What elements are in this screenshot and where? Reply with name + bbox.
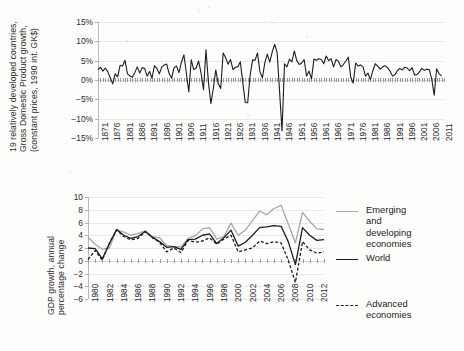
x-tick-label: 2001 <box>420 123 429 141</box>
x-tick-label: 1998 <box>220 284 229 302</box>
y-tick-label: 0 <box>61 256 83 266</box>
x-tick-label: 1931 <box>248 123 257 141</box>
x-tick-label: 1971 <box>347 123 356 141</box>
y-tick-label: −10% <box>59 114 93 124</box>
x-tick-label: 1906 <box>187 123 196 141</box>
x-tick-label: 1986 <box>134 284 143 302</box>
x-tick-label: 2006 <box>277 284 286 302</box>
y-tick-mark <box>85 299 88 300</box>
bottom-chart-legend: Emerging and developing economiesWorldAd… <box>336 201 464 311</box>
y-tick-label: 5% <box>59 56 93 66</box>
x-tick-label: 1981 <box>371 123 380 141</box>
y-tick-label: −4 <box>61 281 83 291</box>
x-tick-label: 1936 <box>261 123 270 141</box>
x-tick-label: 1980 <box>91 284 100 302</box>
x-tick-label: 2000 <box>234 284 243 302</box>
x-tick-mark <box>444 78 445 82</box>
x-tick-label: 1961 <box>322 123 331 141</box>
figure-page: 19 relatively developed countries, Gross… <box>0 0 464 351</box>
series-line <box>88 230 324 282</box>
x-tick-label: 2010 <box>306 284 315 302</box>
legend-swatch-icon <box>336 259 358 260</box>
series-line <box>98 44 442 131</box>
x-tick-label: 1966 <box>334 123 343 141</box>
x-tick-label: 2006 <box>432 123 441 141</box>
y-tick-label: 10 <box>61 192 83 202</box>
x-tick-label: 1946 <box>285 123 294 141</box>
series-layer <box>98 22 444 138</box>
x-tick-label: 2002 <box>249 284 258 302</box>
top-chart-plot-area <box>98 22 444 138</box>
legend-swatch-icon <box>336 305 358 306</box>
x-tick-label: 1926 <box>236 123 245 141</box>
y-tick-label: −5% <box>59 94 93 104</box>
top-chart-panel: 19 relatively developed countries, Gross… <box>0 0 464 185</box>
x-tick-label: 1901 <box>175 123 184 141</box>
x-tick-label: 2008 <box>291 284 300 302</box>
x-tick-label: 1871 <box>101 123 110 141</box>
x-tick-label: 1976 <box>359 123 368 141</box>
y-tick-label: 0% <box>59 75 93 85</box>
x-tick-label: 1991 <box>396 123 405 141</box>
x-tick-label: 2004 <box>263 284 272 302</box>
x-tick-label: 1996 <box>408 123 417 141</box>
bottom-chart-panel: GDP growth, annual percentage change 108… <box>0 185 464 351</box>
y-tick-label: 15% <box>59 17 93 27</box>
y-tick-label: 4 <box>61 230 83 240</box>
y-tick-label: 8 <box>61 205 83 215</box>
top-chart-y-axis-title: 19 relatively developed countries, Gross… <box>8 2 39 152</box>
x-tick-label: 1951 <box>298 123 307 141</box>
x-tick-label: 1982 <box>106 284 115 302</box>
y-tick-label: −6 <box>61 294 83 304</box>
legend-swatch-icon <box>336 211 358 212</box>
y-tick-label: −15% <box>59 133 93 143</box>
x-tick-label: 1994 <box>191 284 200 302</box>
x-tick-label: 1911 <box>199 123 208 141</box>
y-tick-label: 6 <box>61 218 83 228</box>
x-tick-label: 1988 <box>148 284 157 302</box>
x-tick-label: 1921 <box>224 123 233 141</box>
x-tick-label: 1996 <box>206 284 215 302</box>
x-tick-label: 1990 <box>163 284 172 302</box>
x-tick-label: 1986 <box>383 123 392 141</box>
x-tick-label: 1896 <box>163 123 172 141</box>
y-tick-label: 2 <box>61 243 83 253</box>
x-tick-label: 1886 <box>138 123 147 141</box>
top-y-title-line-2: Gross Domestic Product growth, <box>18 2 28 152</box>
y-tick-label: −2 <box>61 269 83 279</box>
y-tick-mark <box>95 138 98 139</box>
legend-label: Emerging and developing economies <box>366 204 411 250</box>
x-tick-label: 1916 <box>212 123 221 141</box>
bottom-y-title-line-1: GDP growth, annual <box>46 195 56 315</box>
x-tick-label: 1941 <box>273 123 282 141</box>
legend-label: Advanced economies <box>366 298 411 321</box>
x-tick-label: 1876 <box>113 123 122 141</box>
x-tick-label: 1881 <box>126 123 135 141</box>
x-tick-label: 1992 <box>177 284 186 302</box>
x-tick-mark <box>324 259 325 263</box>
top-y-title-line-1: 19 relatively developed countries, <box>8 2 18 152</box>
legend-label: World <box>366 252 390 263</box>
top-y-title-line-3: (constant prices, 1990 int. GK$) <box>29 2 39 152</box>
x-tick-label: 1891 <box>150 123 159 141</box>
x-tick-label: 2011 <box>445 123 454 141</box>
y-tick-label: 10% <box>59 36 93 46</box>
x-tick-label: 2012 <box>320 284 329 302</box>
x-tick-label: 1984 <box>120 284 129 302</box>
x-tick-label: 1956 <box>310 123 319 141</box>
